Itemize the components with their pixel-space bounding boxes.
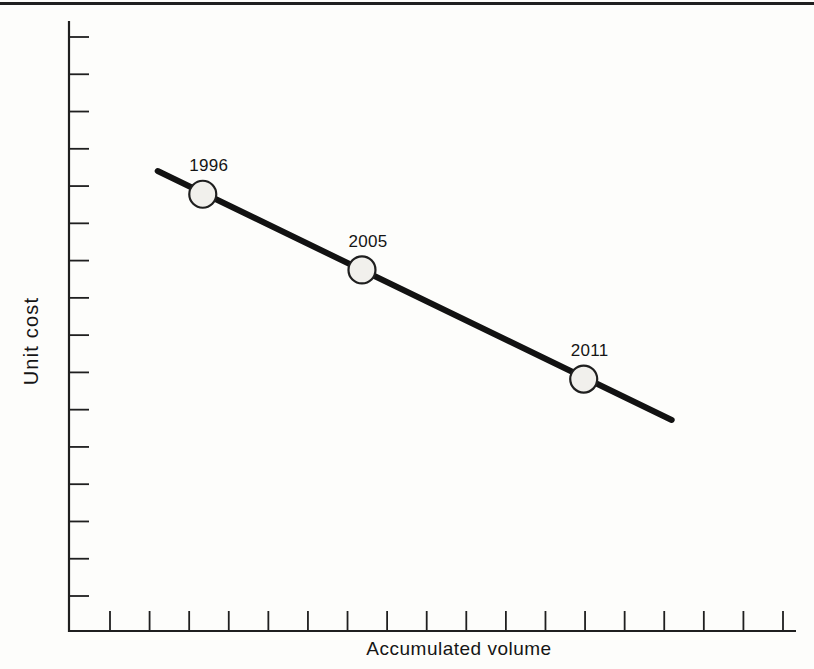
y-axis-ticks <box>69 37 89 596</box>
x-axis-ticks <box>110 611 783 631</box>
x-axis-label: Accumulated volume <box>366 638 551 659</box>
point-labels-layer: 199620052011 <box>189 156 608 360</box>
experience-curve-chart: 199620052011 Accumulated volume Unit cos… <box>0 0 814 669</box>
point-label-1996: 1996 <box>189 156 228 175</box>
data-point-1996 <box>189 181 216 208</box>
figure-page: 199620052011 Accumulated volume Unit cos… <box>0 0 814 669</box>
data-point-2011 <box>570 366 597 393</box>
point-label-2011: 2011 <box>571 341 609 360</box>
point-label-2005: 2005 <box>348 232 387 251</box>
series-layer <box>158 171 672 420</box>
y-axis-label: Unit cost <box>20 297 42 386</box>
data-point-2005 <box>348 256 375 283</box>
